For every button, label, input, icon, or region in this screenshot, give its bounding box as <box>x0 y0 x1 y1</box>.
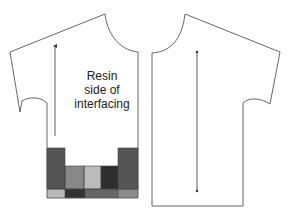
right-piece-outline <box>152 14 280 206</box>
pattern-diagram <box>0 0 292 215</box>
label-line-2: side of <box>62 83 142 97</box>
label-line-3: interfacing <box>62 97 142 111</box>
patchwork-panel <box>47 148 138 198</box>
grainline-end-bottom <box>196 190 198 192</box>
label-line-1: Resin <box>62 69 142 83</box>
grainline-end-top <box>196 51 198 53</box>
resin-side-label: Resin side of interfacing <box>62 69 142 111</box>
